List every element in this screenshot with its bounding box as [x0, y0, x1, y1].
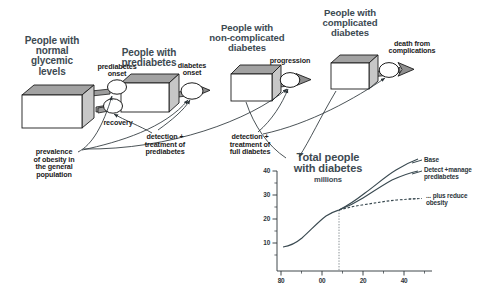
stock-normal-glycemic[interactable] — [22, 85, 94, 128]
diagram-canvas: People withnormalglycemiclevels People w… — [0, 0, 483, 297]
chart-xtick-label-00: 00 — [312, 277, 332, 284]
aux-label-obesity-prevalence: prevalenceof obesity inthe generalpopula… — [20, 148, 88, 178]
chart-xtick-label-80: 80 — [271, 277, 291, 284]
flow-label-diabetes-onset: diabetesonset — [163, 62, 221, 77]
chart-xtick-label-40: 40 — [394, 277, 414, 284]
heading-noncomplicated-diabetes: People withnon-complicateddiabetes — [191, 23, 303, 52]
chart-ytick-label-10: 10 — [251, 239, 270, 246]
stock-front-face — [331, 63, 369, 89]
legend-leaders — [409, 160, 422, 199]
valve-death-from-complications — [379, 63, 399, 78]
chart-xtick-label-20: 20 — [353, 277, 373, 284]
chart-title-line2: with diabetes — [272, 163, 384, 174]
aux-label-detect-treat-prediabetes: detection +treatment ofprediabetes — [131, 133, 199, 156]
legend-label-detect-manage-2: prediabetes — [424, 174, 483, 181]
flow-label-recovery: recovery — [92, 119, 144, 126]
chart-ytick-label-20: 20 — [251, 215, 270, 222]
stock-noncomplicated-diabetes[interactable] — [231, 65, 281, 101]
flow-label-death-from-complications: death fromcomplications — [374, 40, 450, 55]
chart-subtitle-millions: millions — [272, 175, 384, 184]
valve-recovery — [104, 99, 123, 113]
stock-complicated-diabetes[interactable] — [331, 55, 378, 89]
chart-axes — [273, 171, 433, 276]
flow-label-prediabetes-onset: prediabetesonset — [84, 63, 150, 78]
valve-prediabetes-onset — [108, 80, 127, 94]
flow-label-progression: progression — [259, 57, 321, 64]
chart-ytick-label-30: 30 — [251, 191, 270, 198]
stock-front-face — [231, 74, 272, 101]
link-comp-to-total — [299, 91, 336, 157]
stock-front-face — [22, 95, 82, 128]
valve-progression — [280, 73, 300, 88]
legend-leader-obesity — [409, 199, 422, 200]
chart-ytick-label-40: 40 — [251, 167, 270, 174]
heading-complicated-diabetes: People withcomplicateddiabetes — [300, 8, 400, 37]
valve-diabetes-onset — [181, 83, 203, 99]
legend-label-reduce-obesity-2: obesity — [426, 200, 483, 207]
stock-front-face — [121, 83, 169, 112]
stock-prediabetes[interactable] — [121, 74, 179, 112]
legend-label-base: Base — [424, 157, 482, 164]
